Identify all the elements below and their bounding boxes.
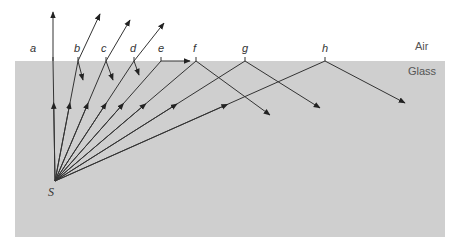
glass-region [15,61,445,237]
refracted-ray-b [78,14,100,61]
ray-label-c: c [101,42,107,54]
ray-label-h: h [322,42,328,54]
glass-label: Glass [408,65,437,77]
ray-label-b: b [74,42,80,54]
ray-label-d: d [130,42,137,54]
air-label: Air [415,40,429,52]
source-label: S [48,185,54,199]
refraction-diagram: abcdefgh Air Glass S [0,0,459,251]
refracted-ray-c [106,20,130,61]
ray-label-f: f [193,42,197,54]
ray-label-a: a [30,42,36,54]
ray-label-g: g [242,42,249,54]
ray-labels: abcdefgh [30,42,328,54]
ray-label-e: e [158,42,164,54]
